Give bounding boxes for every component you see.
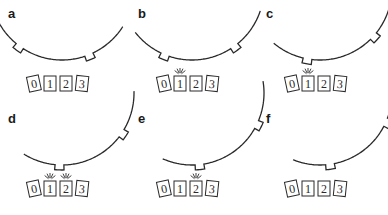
sensor-3: 3 xyxy=(333,75,347,91)
sensor-1: 1 xyxy=(44,76,56,91)
sensor-0: 0 xyxy=(284,75,299,92)
notched-wheel-arc xyxy=(135,11,260,61)
wheel-diagram: 0123 xyxy=(130,0,260,105)
sensor-1: 1 xyxy=(302,76,314,91)
sensor-label: 1 xyxy=(305,182,311,196)
sensor-2: 2 xyxy=(60,76,72,91)
wheel-diagram: 0123 xyxy=(258,0,388,105)
sensor-label: 2 xyxy=(321,77,327,91)
sensor-2: 2 xyxy=(190,181,202,196)
sensor-2: 2 xyxy=(318,181,330,196)
sensor-active-rays-icon xyxy=(303,68,314,74)
sensor-label: 2 xyxy=(63,182,69,196)
panel-b: b0123 xyxy=(130,0,260,105)
panel-d: d0123 xyxy=(0,105,130,210)
sensor-active-rays-icon xyxy=(191,173,202,179)
notched-wheel-arc xyxy=(0,17,123,61)
sensor-2: 2 xyxy=(60,181,72,196)
sensor-3: 3 xyxy=(75,180,89,196)
sensor-1: 1 xyxy=(44,181,56,196)
sensor-1: 1 xyxy=(174,181,186,196)
sensor-active-rays-icon xyxy=(175,68,186,74)
panel-a: a0123 xyxy=(0,0,130,105)
wheel-diagram: 0123 xyxy=(258,105,388,210)
panel-e: e0123 xyxy=(130,105,260,210)
sensor-0: 0 xyxy=(26,75,41,92)
sensor-label: 2 xyxy=(63,77,69,91)
sensor-2: 2 xyxy=(190,76,202,91)
sensor-label: 1 xyxy=(305,77,311,91)
sensor-label: 1 xyxy=(177,77,183,91)
wheel-diagram: 0123 xyxy=(130,105,260,210)
notched-wheel-arc xyxy=(274,0,388,65)
panel-c: c0123 xyxy=(258,0,388,105)
panel-f: f0123 xyxy=(258,105,388,210)
sensor-label: 2 xyxy=(321,182,327,196)
sensor-0: 0 xyxy=(156,75,171,92)
sensor-3: 3 xyxy=(205,180,219,196)
sensor-3: 3 xyxy=(205,75,219,91)
sensor-2: 2 xyxy=(318,76,330,91)
sensor-1: 1 xyxy=(174,76,186,91)
sensor-label: 1 xyxy=(177,182,183,196)
sensor-active-rays-icon xyxy=(45,173,56,179)
sensor-3: 3 xyxy=(333,180,347,196)
wheel-diagram: 0123 xyxy=(0,0,130,105)
sensor-0: 0 xyxy=(26,180,41,197)
sensor-0: 0 xyxy=(284,180,299,197)
sensor-label: 2 xyxy=(193,182,199,196)
sensor-3: 3 xyxy=(75,75,89,91)
sensor-label: 2 xyxy=(193,77,199,91)
sensor-0: 0 xyxy=(156,180,171,197)
wheel-diagram: 0123 xyxy=(0,105,130,210)
sensor-1: 1 xyxy=(302,181,314,196)
sensor-active-rays-icon xyxy=(61,173,72,179)
sensor-label: 1 xyxy=(47,77,53,91)
sensor-label: 1 xyxy=(47,182,53,196)
